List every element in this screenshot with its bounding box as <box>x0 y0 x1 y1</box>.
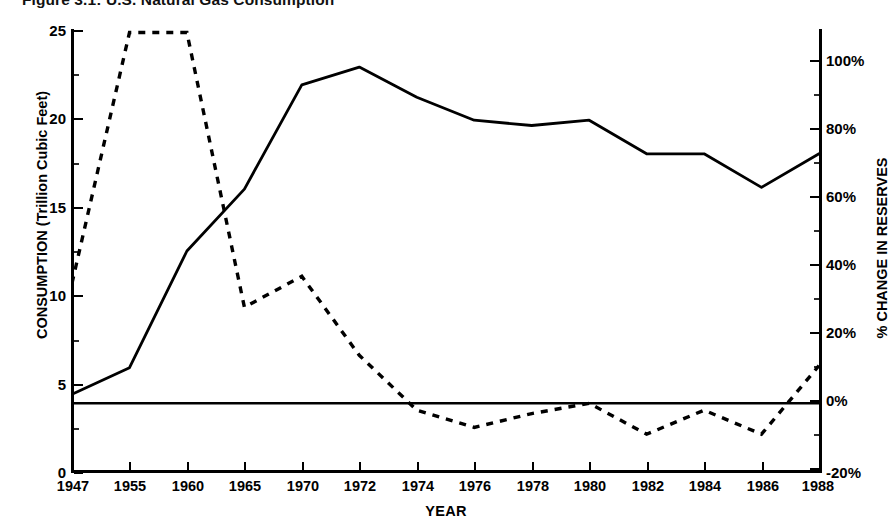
y-axis-right-tick-label: 20% <box>826 324 856 341</box>
y-axis-right-tick <box>810 60 819 62</box>
y-axis-left-minor-tick <box>74 251 79 253</box>
y-axis-right-minor-tick <box>814 366 819 368</box>
y-axis-left-tick <box>74 384 83 386</box>
x-axis-tick-label: 1982 <box>632 478 664 494</box>
x-axis-tick <box>417 462 419 471</box>
y-axis-right-tick <box>810 128 819 130</box>
x-axis-tick-label: 1984 <box>689 478 721 494</box>
x-axis-tick <box>244 462 246 471</box>
x-axis-tick <box>819 462 821 471</box>
y-axis-right-minor-tick <box>814 162 819 164</box>
y-axis-right-tick-label: 40% <box>826 256 856 273</box>
y-axis-right-minor-tick <box>814 434 819 436</box>
y-axis-right-tick <box>810 196 819 198</box>
x-axis-tick <box>532 462 534 471</box>
x-axis-tick-label: 1970 <box>287 478 319 494</box>
y-axis-left-tick <box>74 207 83 209</box>
x-axis-tick-label: 1960 <box>172 478 204 494</box>
x-axis-tick <box>589 462 591 471</box>
figure-natural-gas-consumption: Figure 3.1: U.S. Natural Gas Consumption… <box>0 0 892 531</box>
y-axis-left-tick <box>74 30 83 32</box>
x-axis-tick-label: 1972 <box>344 478 376 494</box>
consumption-solid-line <box>72 67 819 394</box>
x-axis-tick-label: 1988 <box>802 478 834 494</box>
y-axis-right-tick <box>810 400 819 402</box>
y-axis-right-tick-label: 100% <box>826 52 864 69</box>
x-axis-title: YEAR <box>0 503 892 519</box>
y-axis-right-tick-label: 0% <box>826 392 848 409</box>
y-axis-left-minor-tick <box>74 74 79 76</box>
y-axis-right-tick <box>810 332 819 334</box>
x-axis-tick <box>762 462 764 471</box>
y-axis-left-tick <box>74 118 83 120</box>
x-axis-tick-label: 1947 <box>57 478 89 494</box>
y-axis-right-tick <box>810 468 819 470</box>
y-axis-right-tick <box>810 264 819 266</box>
reserves-dashed-line <box>72 33 819 435</box>
y-axis-left-title: CONSUMPTION (Trillion Cubic Feet) <box>34 25 50 405</box>
x-axis-tick-label: 1974 <box>402 478 434 494</box>
y-axis-left-tick <box>74 472 83 474</box>
y-axis-right-minor-tick <box>814 94 819 96</box>
y-axis-left-minor-tick <box>74 428 79 430</box>
y-axis-right-tick-label: 60% <box>826 188 856 205</box>
y-axis-right-title: % CHANGE IN RESERVES <box>874 78 890 418</box>
x-axis-tick-label: 1955 <box>114 478 146 494</box>
x-axis-tick <box>302 462 304 471</box>
y-axis-right-spine <box>819 29 822 473</box>
chart-plot-lines <box>0 0 892 531</box>
x-axis-tick-label: 1980 <box>574 478 606 494</box>
x-axis-tick <box>474 462 476 471</box>
y-axis-right-minor-tick <box>814 298 819 300</box>
y-axis-left-tick <box>74 295 83 297</box>
x-axis-tick <box>647 462 649 471</box>
x-axis-tick <box>704 462 706 471</box>
y-axis-left-minor-tick <box>74 340 79 342</box>
x-axis-tick-label: 1986 <box>747 478 779 494</box>
y-axis-right-tick-label: 80% <box>826 120 856 137</box>
x-axis-tick-label: 1965 <box>229 478 261 494</box>
x-axis-tick-label: 1978 <box>517 478 549 494</box>
x-axis-spine <box>71 470 822 473</box>
y-axis-left-minor-tick <box>74 163 79 165</box>
page-title: Figure 3.1: U.S. Natural Gas Consumption <box>22 0 334 9</box>
x-axis-tick-label: 1976 <box>459 478 491 494</box>
y-axis-right-minor-tick <box>814 230 819 232</box>
x-axis-tick <box>187 462 189 471</box>
x-axis-tick <box>72 462 74 471</box>
x-axis-tick <box>359 462 361 471</box>
x-axis-tick <box>129 462 131 471</box>
